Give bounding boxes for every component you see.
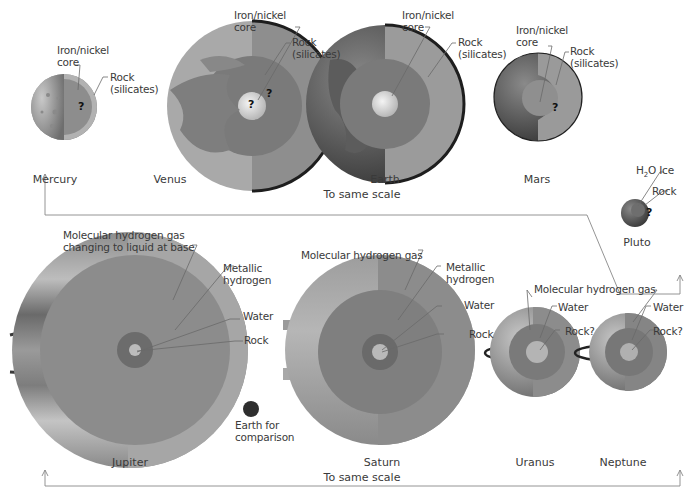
saturn-name: Saturn	[364, 456, 400, 469]
earth-core-label: Iron/nickelcore	[402, 9, 454, 33]
venus-unknown-marker: ?	[248, 98, 254, 111]
earth-comparison-dot	[243, 401, 259, 417]
jupiter-name: Jupiter	[112, 456, 148, 469]
venus-name: Venus	[153, 173, 186, 186]
uranus-name: Uranus	[516, 456, 555, 469]
mars-name: Mars	[524, 173, 551, 186]
venus-unknown-marker-2: ?	[266, 87, 272, 100]
jupiter-planet	[10, 230, 258, 470]
mercury-name: Mercury	[33, 173, 78, 186]
jupiter-rock-label: Rock	[244, 334, 268, 346]
earth-rock-label: Rock(silicates)	[458, 36, 506, 60]
jupiter-gas-label: Molecular hydrogen gaschanging to liquid…	[63, 229, 194, 253]
saturn-rock-label: Rock	[469, 328, 493, 340]
mars-rock-label: Rock(silicates)	[570, 45, 618, 69]
neptune-rock-label: Rock?	[653, 325, 683, 337]
earth-comparison-label: Earth forcomparison	[235, 419, 294, 443]
mercury-unknown-marker: ?	[78, 100, 84, 113]
mercury-planet	[30, 70, 104, 150]
giants-scale-label: To same scale	[324, 471, 401, 484]
pluto-unknown-marker: ?	[646, 206, 652, 219]
earth-name: Earth	[370, 173, 400, 186]
saturn-metallic-label: Metallichydrogen	[446, 261, 494, 285]
venus-rock-label: Rock(silicates)	[292, 36, 340, 60]
saturn-water-label: Water	[464, 299, 494, 311]
uranus-rock-label: Rock?	[565, 325, 595, 337]
saturn-gas-label: Molecular hydrogen gas	[301, 249, 423, 261]
ice-giants-gas-label: Molecular hydrogen gas	[534, 283, 656, 295]
terrestrial-scale-label: To same scale	[324, 188, 401, 201]
pluto-rock-label: Rock	[652, 185, 676, 197]
uranus-water-label: Water	[558, 301, 588, 313]
neptune-planet	[575, 310, 670, 400]
pluto-name: Pluto	[623, 236, 651, 249]
pluto-planet	[621, 199, 649, 227]
mercury-rock-label: Rock(silicates)	[110, 71, 158, 95]
venus-core-label: Iron/nickelcore	[234, 9, 286, 33]
jupiter-water-label: Water	[243, 310, 273, 322]
uranus-planet	[485, 300, 583, 410]
jupiter-metallic-label: Metallichydrogen	[223, 262, 271, 286]
mars-unknown-marker: ?	[552, 101, 558, 114]
mercury-core-label: Iron/nickelcore	[57, 44, 109, 68]
mars-core-label: Iron/nickelcore	[516, 24, 568, 48]
neptune-water-label: Water	[653, 301, 683, 313]
pluto-ice-label: H2O Ice	[636, 164, 674, 181]
neptune-name: Neptune	[599, 456, 646, 469]
